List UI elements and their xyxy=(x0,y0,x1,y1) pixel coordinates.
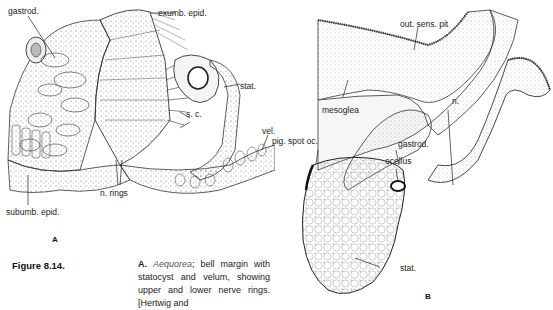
label-gastrod-b: gastrod. xyxy=(398,140,429,149)
figure-caption: A. Aequorea; bell margin with statocyst … xyxy=(138,258,270,310)
label-subumb-epid: subumb. epid. xyxy=(6,208,59,217)
panel-a-letter: A xyxy=(52,235,58,244)
label-pig-spot-oc: pig. spot oc. xyxy=(272,137,318,146)
label-out-sens-pit: out. sens. pit xyxy=(400,20,448,29)
panel-b-letter: B xyxy=(425,292,431,301)
label-stat-b: stat. xyxy=(400,264,416,273)
figure-panel-a: gastrod. exumb. epid. stat. s. c. vel. n… xyxy=(0,0,275,245)
figure-number: Figure 8.14. xyxy=(12,260,65,271)
label-vel: vel. xyxy=(262,127,275,136)
label-mesoglea: mesoglea xyxy=(322,106,359,115)
label-sc: s. c. xyxy=(186,110,202,119)
figure-panel-b: out. sens. pit mesoglea pig. spot oc. ga… xyxy=(278,0,553,305)
label-exumb-epid: exumb. epid. xyxy=(158,9,207,18)
label-n: n. xyxy=(452,97,459,106)
label-stat-a: stat. xyxy=(240,82,256,91)
caption-part-letter: A. xyxy=(138,259,147,269)
panel-b-illustration xyxy=(278,0,553,305)
label-ocellus: ocellus xyxy=(385,157,411,166)
label-gastrod-a: gastrod. xyxy=(8,7,39,16)
label-n-rings: n. rings xyxy=(100,189,128,198)
caption-species: Aequorea xyxy=(153,259,192,269)
